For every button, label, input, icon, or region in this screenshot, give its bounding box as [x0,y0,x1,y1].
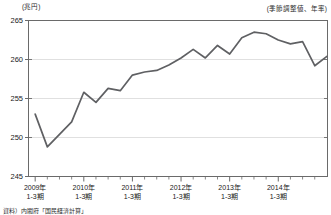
y-axis-tick-label: 245 [1,172,23,181]
x-axis-quarter-label: 1-3期 [106,192,158,201]
gridlines [29,60,328,138]
x-axis-quarter-label: 1-3期 [9,192,61,201]
y-axis-tick-label: 255 [1,94,23,103]
x-axis-quarter-label: 1-3期 [58,192,110,201]
x-axis-group-label: 2011年1-3期 [106,183,158,201]
gdp-series-line [35,32,327,147]
x-axis-group-label: 2014年1-3期 [252,183,304,201]
x-axis-year-label: 2012年 [155,183,207,192]
x-axis-group-label: 2010年1-3期 [58,183,110,201]
x-axis-year-label: 2010年 [58,183,110,192]
x-axis-ticks [35,177,315,182]
x-axis-quarter-label: 1-3期 [155,192,207,201]
x-axis-quarter-label: 1-3期 [252,192,304,201]
y-axis-tick-label: 260 [1,55,23,64]
x-axis-year-label: 2011年 [106,183,158,192]
y-axis-tick-label: 250 [1,133,23,142]
chart-root: (兆円) (季節調整値、年率) 265260255250245 2009年1-3… [0,0,331,215]
x-axis-group-label: 2009年1-3期 [9,183,61,201]
x-axis-year-label: 2014年 [252,183,304,192]
x-axis-year-label: 2013年 [204,183,256,192]
x-axis-group-label: 2013年1-3期 [204,183,256,201]
x-axis-year-label: 2009年 [9,183,61,192]
source-label: 資料）内閣府「国民経済計算」 [3,206,87,215]
y-axis-tick-label: 265 [1,16,23,25]
x-axis-quarter-label: 1-3期 [204,192,256,201]
x-axis-group-label: 2012年1-3期 [155,183,207,201]
